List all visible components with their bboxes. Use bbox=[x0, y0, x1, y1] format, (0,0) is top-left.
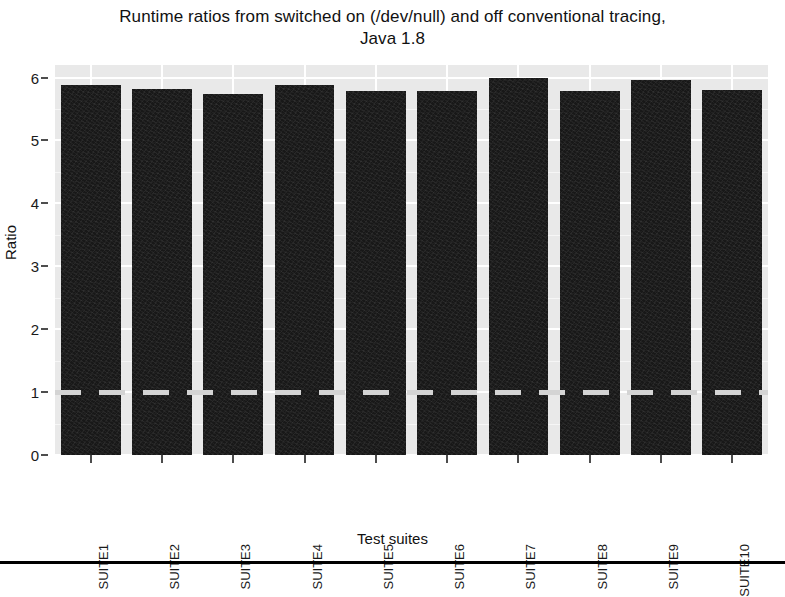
x-tick-label-suite1: SUITE1 bbox=[96, 544, 111, 590]
chart-title: Runtime ratios from switched on (/dev/nu… bbox=[0, 6, 785, 50]
x-tick-label-suite4: SUITE4 bbox=[310, 544, 325, 590]
bar-suite4 bbox=[275, 85, 335, 456]
x-tick-label-suite2: SUITE2 bbox=[167, 544, 182, 590]
y-tick-mark bbox=[41, 454, 48, 456]
y-tick-label-0: 0 bbox=[31, 447, 39, 464]
y-tick-label-1: 1 bbox=[31, 384, 39, 401]
chart-title-line-1: Runtime ratios from switched on (/dev/nu… bbox=[0, 6, 785, 28]
x-tick-mark bbox=[375, 455, 377, 463]
x-tick-mark bbox=[161, 455, 163, 463]
x-tick-mark bbox=[232, 455, 234, 463]
y-tick-mark bbox=[41, 77, 48, 79]
reference-line-ratio-1 bbox=[55, 390, 768, 395]
x-tick-mark bbox=[304, 455, 306, 463]
x-tick-mark bbox=[517, 455, 519, 463]
y-tick-mark bbox=[41, 391, 48, 393]
plot-panel bbox=[55, 65, 768, 455]
x-tick-label-suite3: SUITE3 bbox=[238, 544, 253, 590]
y-tick-label-3: 3 bbox=[31, 258, 39, 275]
bar-suite5 bbox=[346, 91, 406, 455]
x-tick-mark bbox=[731, 455, 733, 463]
bar-suite6 bbox=[417, 91, 477, 455]
bar-suite10 bbox=[702, 90, 762, 455]
x-tick-mark bbox=[446, 455, 448, 463]
x-axis-title: Test suites bbox=[0, 530, 785, 547]
x-tick-mark bbox=[589, 455, 591, 463]
bar-suite2 bbox=[132, 89, 192, 455]
x-tick-label-suite8: SUITE8 bbox=[595, 544, 610, 590]
x-tick-mark bbox=[660, 455, 662, 463]
bar-suite8 bbox=[560, 91, 620, 455]
y-axis: 0123456 bbox=[0, 65, 55, 455]
bottom-rule-divider bbox=[0, 561, 785, 564]
x-tick-label-suite9: SUITE9 bbox=[666, 544, 681, 590]
bar-suite3 bbox=[203, 94, 263, 455]
bar-suite7 bbox=[489, 78, 549, 455]
bar-suite1 bbox=[61, 85, 121, 455]
chart-title-line-2: Java 1.8 bbox=[0, 28, 785, 50]
y-tick-label-2: 2 bbox=[31, 321, 39, 338]
x-tick-label-suite5: SUITE5 bbox=[381, 544, 396, 590]
y-tick-mark bbox=[41, 202, 48, 204]
y-tick-label-5: 5 bbox=[31, 132, 39, 149]
y-axis-title: Ratio bbox=[2, 225, 19, 260]
y-tick-mark bbox=[41, 265, 48, 267]
bar-suite9 bbox=[631, 80, 691, 455]
x-tick-label-suite10: SUITE10 bbox=[737, 544, 752, 597]
y-tick-label-6: 6 bbox=[31, 69, 39, 86]
y-tick-mark bbox=[41, 328, 48, 330]
y-tick-mark bbox=[41, 139, 48, 141]
x-tick-label-suite7: SUITE7 bbox=[523, 544, 538, 590]
y-tick-label-4: 4 bbox=[31, 195, 39, 212]
x-tick-label-suite6: SUITE6 bbox=[452, 544, 467, 590]
x-tick-mark bbox=[90, 455, 92, 463]
